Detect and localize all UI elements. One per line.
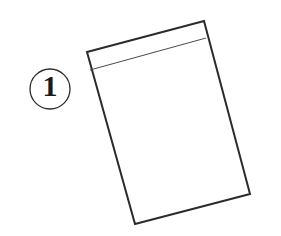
step-number-label: 1 <box>43 69 58 102</box>
figure-canvas: 1 <box>0 0 281 236</box>
figure-container: 1 <box>0 0 281 236</box>
figure-background <box>0 0 281 236</box>
